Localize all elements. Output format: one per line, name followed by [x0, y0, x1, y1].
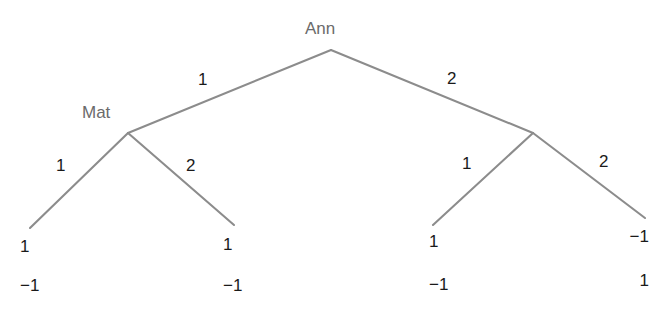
edge-label-root-left: 1 — [198, 71, 207, 88]
edge-left-inner-to-leaf1 — [30, 133, 128, 228]
game-tree-figure: Ann Mat 1 2 1 2 1 2 1 −1 1 −1 1 −1 −1 1 — [0, 0, 669, 314]
leaf4-payoff-bottom: 1 — [611, 272, 649, 289]
leaf1-payoff-bottom: −1 — [20, 277, 39, 294]
edge-label-right-inner-left: 1 — [462, 155, 471, 172]
edge-label-right-inner-right: 2 — [599, 153, 608, 170]
leaf3-payoff-top: 1 — [429, 233, 438, 250]
edge-label-root-right: 2 — [447, 70, 456, 87]
leaf4-payoff-top: −1 — [611, 228, 649, 245]
node-label-root: Ann — [305, 20, 335, 37]
leaf2-payoff-top: 1 — [223, 236, 232, 253]
leaf1-payoff-top: 1 — [20, 238, 29, 255]
tree-edges — [0, 0, 669, 314]
edge-right-inner-to-leaf4 — [533, 133, 645, 218]
leaf3-payoff-bottom: −1 — [429, 276, 448, 293]
edge-right-inner-to-leaf3 — [433, 133, 533, 225]
leaf2-payoff-bottom: −1 — [223, 277, 242, 294]
edge-root-to-right-inner — [331, 50, 533, 133]
edge-label-left-inner-left: 1 — [56, 157, 65, 174]
node-label-left-inner: Mat — [82, 104, 110, 121]
edge-root-to-left-inner — [128, 50, 331, 133]
edge-left-inner-to-leaf2 — [128, 133, 234, 225]
edge-label-left-inner-right: 2 — [186, 157, 195, 174]
